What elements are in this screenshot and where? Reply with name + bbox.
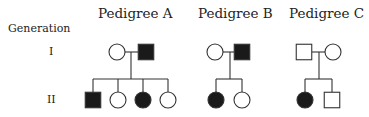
pedigree-c-parent-female-circle-unaffected [325,44,341,60]
pedigree-b-child-female-circle-unaffected [234,92,250,108]
pedigree-a-child-male-square-affected [85,92,101,108]
pedigree-b-child-female-circle-affected [208,92,224,108]
pedigree-a-parent-male-square-affected [138,44,154,60]
pedigree-figure: Generation I II Pedigree A Pedigree B Pe… [0,0,369,117]
pedigree-b-parent-female-circle-unaffected [207,44,223,60]
pedigree-a-parent-female-circle-unaffected [109,44,125,60]
pedigree-a-child-female-circle-unaffected [160,92,176,108]
pedigree-a-child-female-circle-affected [135,92,151,108]
pedigree-c-child-female-circle-affected [297,92,313,108]
pedigree-c-parent-male-square-unaffected [296,44,312,60]
pedigree-b-parent-male-square-affected [234,44,250,60]
pedigree-c-child-male-square-unaffected [324,92,340,108]
pedigree-chart [0,0,369,117]
pedigree-a-child-female-circle-unaffected [110,92,126,108]
